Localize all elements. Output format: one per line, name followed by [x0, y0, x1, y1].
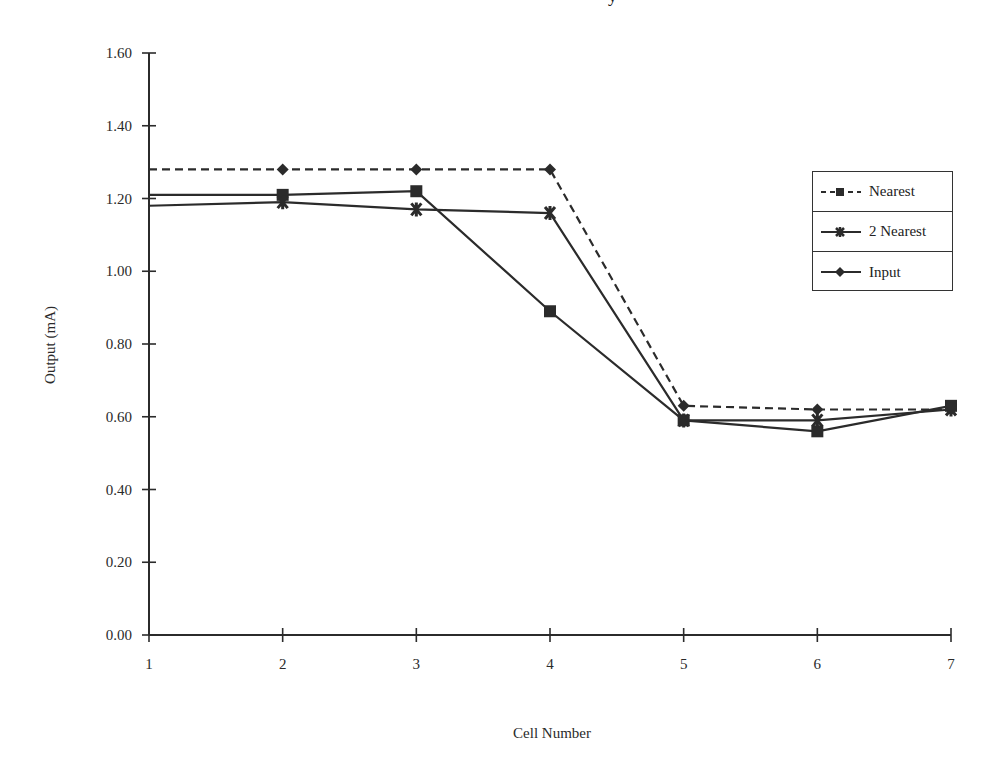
solid-diamond-marker-icon — [819, 265, 863, 279]
line-chart: 0.000.200.400.600.801.001.201.401.601234… — [0, 0, 996, 775]
legend-item-2-nearest: 2 Nearest — [813, 212, 952, 252]
y-tick-label: 0.80 — [106, 336, 132, 352]
x-tick-label: 2 — [279, 656, 287, 672]
x-tick-label: 1 — [145, 656, 153, 672]
y-tick-label: 0.20 — [106, 554, 132, 570]
legend-label: Nearest — [869, 183, 915, 200]
y-tick-label: 0.00 — [106, 627, 132, 643]
x-tick-label: 5 — [680, 656, 688, 672]
legend: Nearest 2 Nearest Input — [812, 171, 953, 291]
y-tick-label: 1.60 — [106, 45, 132, 61]
y-tick-label: 0.60 — [106, 409, 132, 425]
legend-item-input: Input — [813, 252, 952, 292]
y-tick-label: 1.20 — [106, 191, 132, 207]
x-tick-label: 3 — [413, 656, 421, 672]
y-tick-label: 1.00 — [106, 263, 132, 279]
x-tick-label: 7 — [947, 656, 955, 672]
legend-label: Input — [869, 264, 901, 281]
dashed-square-marker-icon — [819, 185, 863, 199]
y-axis-title: Output (mA) — [42, 306, 59, 384]
x-tick-label: 4 — [546, 656, 554, 672]
solid-star-marker-icon — [819, 225, 863, 239]
legend-item-nearest: Nearest — [813, 172, 952, 212]
axes: 0.000.200.400.600.801.001.201.401.601234… — [106, 45, 956, 672]
legend-label: 2 Nearest — [869, 223, 926, 240]
y-tick-label: 0.40 — [106, 482, 132, 498]
x-tick-label: 6 — [814, 656, 822, 672]
x-axis-title: Cell Number — [513, 725, 591, 741]
y-tick-label: 1.40 — [106, 118, 132, 134]
